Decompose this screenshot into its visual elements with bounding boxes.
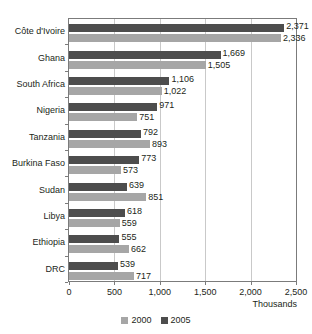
category-label: DRC	[0, 264, 65, 274]
bar-value-label: 1,106	[171, 75, 194, 84]
category-tick	[65, 229, 68, 230]
bar-2005	[69, 103, 157, 111]
value-tick	[251, 282, 252, 285]
value-tick	[69, 282, 70, 285]
x-axis-title: Thousands	[252, 300, 297, 309]
bar-chart: Côte d'IvoireGhanaSouth AfricaNigeriaTan…	[0, 0, 312, 334]
category-tick	[65, 97, 68, 98]
bar-group: 539717	[69, 260, 296, 280]
legend-item[interactable]: 2000	[121, 316, 151, 325]
category-label: Ethiopia	[0, 237, 65, 247]
bar-2000	[69, 193, 146, 201]
bar-2005	[69, 209, 125, 217]
bar-2000	[69, 140, 150, 148]
category-tick	[65, 256, 68, 257]
bar-group: 792893	[69, 128, 296, 148]
chart-legend: 20002005	[0, 316, 312, 325]
bar-group: 1,1061,022	[69, 75, 296, 95]
category-tick	[65, 150, 68, 151]
bar-value-label: 555	[121, 233, 136, 242]
bar-rows: 2,3712,3361,6691,5051,1061,0229717517928…	[69, 19, 296, 281]
category-label: South Africa	[0, 79, 65, 89]
bar-value-label: 971	[159, 101, 174, 110]
bar-2000	[69, 61, 206, 69]
bar-group: 2,3712,336	[69, 22, 296, 42]
bar-value-label: 792	[143, 128, 158, 137]
bar-2000	[69, 219, 120, 227]
value-tick	[160, 282, 161, 285]
legend-swatch-icon	[161, 317, 168, 324]
bar-value-label: 2,336	[283, 34, 306, 43]
plot-area: 2,3712,3361,6691,5051,1061,0229717517928…	[68, 18, 297, 282]
category-tick	[65, 44, 68, 45]
bar-group: 1,6691,505	[69, 49, 296, 69]
bar-value-label: 751	[139, 113, 154, 122]
category-axis: Côte d'IvoireGhanaSouth AfricaNigeriaTan…	[0, 18, 65, 282]
category-tick	[65, 71, 68, 72]
category-tick	[65, 124, 68, 125]
category-label: Tanzania	[0, 132, 65, 142]
bar-value-label: 851	[148, 193, 163, 202]
bar-group: 639851	[69, 181, 296, 201]
bar-2005	[69, 235, 119, 243]
bar-value-label: 2,371	[286, 22, 309, 31]
value-tick-label: 2,500	[285, 288, 308, 297]
value-tick-label: 2,000	[239, 288, 262, 297]
value-tick	[114, 282, 115, 285]
category-label: Libya	[0, 211, 65, 221]
bar-2000	[69, 166, 121, 174]
bar-group: 618559	[69, 207, 296, 227]
bar-2005	[69, 130, 141, 138]
bar-2000	[69, 245, 129, 253]
bar-group: 555662	[69, 233, 296, 253]
bar-value-label: 559	[122, 219, 137, 228]
bar-value-label: 573	[123, 166, 138, 175]
bar-2000	[69, 34, 281, 42]
bar-2005	[69, 51, 221, 59]
category-label: Nigeria	[0, 105, 65, 115]
legend-label: 2005	[171, 316, 191, 325]
bar-group: 971751	[69, 101, 296, 121]
bar-2005	[69, 77, 169, 85]
plot-wrapper: Côte d'IvoireGhanaSouth AfricaNigeriaTan…	[0, 0, 312, 300]
bar-value-label: 1,505	[208, 61, 231, 70]
legend-item[interactable]: 2005	[161, 316, 191, 325]
value-tick-label: 0	[66, 288, 71, 297]
bar-value-label: 773	[141, 154, 156, 163]
category-tick	[65, 203, 68, 204]
legend-label: 2000	[131, 316, 151, 325]
bar-value-label: 662	[131, 245, 146, 254]
value-tick	[205, 282, 206, 285]
value-tick	[296, 282, 297, 285]
bar-value-label: 618	[127, 207, 142, 216]
bar-2000	[69, 87, 162, 95]
value-tick-label: 1,500	[194, 288, 217, 297]
bar-value-label: 717	[136, 272, 151, 281]
bar-group: 773573	[69, 154, 296, 174]
legend-swatch-icon	[121, 317, 128, 324]
bar-2005	[69, 183, 127, 191]
bar-2005	[69, 24, 284, 32]
category-tick	[65, 282, 68, 283]
bar-value-label: 1,669	[223, 49, 246, 58]
bar-value-label: 539	[120, 260, 135, 269]
bar-value-label: 639	[129, 181, 144, 190]
bar-value-label: 1,022	[164, 87, 187, 96]
bar-2005	[69, 262, 118, 270]
bar-2005	[69, 156, 139, 164]
value-tick-label: 500	[107, 288, 122, 297]
bar-value-label: 893	[152, 140, 167, 149]
bar-2000	[69, 113, 137, 121]
bar-2000	[69, 272, 134, 280]
category-label: Burkina Faso	[0, 158, 65, 168]
value-tick-label: 1,000	[149, 288, 172, 297]
category-label: Côte d'Ivoire	[0, 26, 65, 36]
category-tick	[65, 176, 68, 177]
category-label: Sudan	[0, 185, 65, 195]
category-label: Ghana	[0, 53, 65, 63]
